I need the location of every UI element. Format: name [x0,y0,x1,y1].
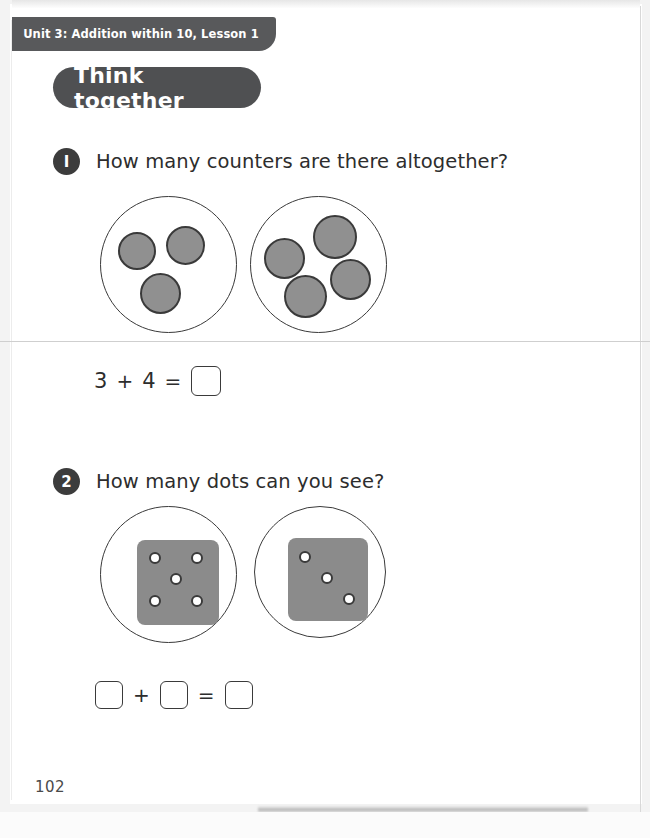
dice-group-1 [100,506,237,643]
page-number: 102 [35,778,65,796]
question-1-text: How many counters are there altogether? [96,150,508,173]
equation-1-left-addend: 3 [94,369,107,393]
counter-2-3 [330,259,371,300]
counter-2-1 [264,238,305,279]
question-1-number-badge: I [53,148,80,175]
equation-1: 3 + 4 = [92,366,224,396]
die-1-pip-3 [170,573,182,585]
question-1-heading: I How many counters are there altogether… [53,148,508,175]
equation-1-equals-sign: = [165,369,182,393]
counter-2-2 [313,215,357,259]
unit-tab-label: Unit 3: Addition within 10, Lesson 1 [23,27,259,41]
die-1-pip-5 [191,595,203,607]
question-2-text: How many dots can you see? [96,470,384,493]
equation-2-answer-box[interactable] [225,681,253,709]
equation-2-equals-sign: = [198,683,215,707]
die-2-pip-3 [343,593,355,605]
counter-1-2 [166,226,205,265]
die-1-pip-2 [191,552,203,564]
dice-group-2 [254,506,386,638]
die-1-pip-1 [149,552,161,564]
equation-2: + = [92,681,256,709]
counter-group-1 [100,196,237,333]
die-1-pip-4 [149,595,161,607]
question-2-number-badge: 2 [53,468,80,495]
equation-2-plus-sign: + [133,683,150,707]
counter-1-3 [140,273,181,314]
die-1 [137,540,219,625]
equation-1-right-addend: 4 [142,369,155,393]
page-top-edge [12,0,640,8]
question-2-heading: 2 How many dots can you see? [53,468,384,495]
page-left-edge [11,20,12,800]
page-fold-line [0,341,650,342]
think-together-banner: Think together [53,67,261,108]
page-right-edge [640,6,641,812]
die-2 [288,538,368,621]
page-bottom-edge [0,812,650,838]
equation-2-right-box[interactable] [160,681,188,709]
equation-1-plus-sign: + [116,369,133,393]
think-together-label: Think together [74,63,261,113]
equation-2-left-box[interactable] [95,681,123,709]
counter-group-2 [250,196,387,333]
counter-1-1 [118,232,156,270]
counter-2-4 [284,275,327,318]
unit-tab: Unit 3: Addition within 10, Lesson 1 [12,17,276,51]
die-2-pip-2 [321,572,333,584]
die-2-pip-1 [299,551,311,563]
equation-1-answer-box[interactable] [191,366,221,396]
